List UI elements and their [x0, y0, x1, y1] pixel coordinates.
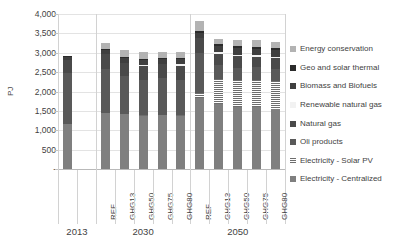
legend-swatch-icon — [290, 83, 296, 89]
legend-swatch-icon — [290, 176, 296, 182]
legend-label: Energy conservation — [300, 45, 373, 53]
bar-segment — [63, 124, 72, 169]
legend-item[interactable]: Oli products — [290, 133, 410, 152]
bar-segment — [63, 60, 72, 73]
category-tick — [266, 170, 267, 224]
bar-segment — [271, 81, 280, 108]
legend-item[interactable]: Geo and solar thermal — [290, 59, 410, 78]
gridline — [58, 53, 285, 54]
bar-segment — [101, 113, 110, 169]
bar-segment — [252, 49, 261, 56]
legend-swatch-icon — [290, 158, 296, 164]
bar-segment — [271, 58, 280, 69]
legend-swatch-icon — [290, 139, 296, 145]
y-axis-tick-label: 2,000 — [35, 87, 56, 97]
bar-segment — [271, 69, 280, 81]
bar-segment — [158, 115, 167, 169]
bar-segment — [233, 107, 242, 169]
bar-segment — [101, 54, 110, 70]
bar-stack[interactable] — [63, 56, 72, 169]
bar-segment — [271, 50, 280, 57]
bar-segment — [139, 80, 148, 115]
bar-segment — [271, 109, 280, 169]
legend-label: Natural gas — [300, 120, 341, 128]
bar-segment — [120, 63, 129, 76]
bar-segment — [176, 66, 185, 80]
bar-segment — [158, 78, 167, 115]
bar-segment — [233, 80, 242, 106]
bar-stack[interactable] — [158, 52, 167, 169]
gridline — [58, 92, 285, 93]
legend-item[interactable]: Biomass and Biofuels — [290, 77, 410, 96]
category-tick — [209, 170, 210, 224]
bar-segment — [195, 38, 204, 53]
bar-segment — [101, 69, 110, 113]
bar-stack[interactable] — [233, 40, 242, 169]
bar-stack[interactable] — [195, 21, 204, 169]
bar-stack[interactable] — [139, 52, 148, 169]
bar-segment — [233, 48, 242, 55]
legend-item[interactable]: Natural gas — [290, 114, 410, 133]
bar-segment — [252, 107, 261, 169]
bar-segment — [195, 98, 204, 169]
axis-boundary — [58, 14, 59, 224]
stacked-bar-chart: PJ -5001,0001,5002,0002,5003,0003,5004,0… — [0, 0, 413, 240]
bar-stack[interactable] — [252, 40, 261, 169]
legend-item[interactable]: Electricity - Centralized — [290, 170, 410, 189]
category-tick — [77, 170, 78, 224]
category-tick — [228, 170, 229, 224]
gridline — [58, 14, 285, 15]
gridline — [58, 72, 285, 73]
y-axis-tick-label: 1,000 — [35, 125, 56, 135]
gridline — [58, 111, 285, 112]
y-axis-tick-label: 3,500 — [35, 28, 56, 38]
bar-stack[interactable] — [214, 39, 223, 169]
category-tick — [134, 170, 135, 224]
legend-item[interactable]: Energy conservation — [290, 40, 410, 59]
bar-segment — [139, 66, 148, 79]
legend-label: Electricity - Solar PV — [300, 157, 373, 165]
legend-item[interactable]: Electricity - Solar PV — [290, 152, 410, 171]
y-axis-tick-label: 3,000 — [35, 48, 56, 58]
bar-segment — [195, 21, 204, 31]
y-axis-tick-labels: -5001,0001,5002,0002,5003,0003,5004,000 — [18, 14, 56, 170]
bar-stack[interactable] — [120, 50, 129, 169]
bar-stack[interactable] — [271, 42, 280, 169]
y-axis-tick-label: 1,500 — [35, 106, 56, 116]
y-axis-tick-label: 2,500 — [35, 67, 56, 77]
category-tick — [153, 170, 154, 224]
bar-segment — [139, 116, 148, 169]
y-axis-tick-label: 4,000 — [35, 9, 56, 19]
bar-stack[interactable] — [101, 43, 110, 169]
bar-segment — [271, 42, 280, 49]
bar-segment — [63, 73, 72, 125]
bar-segment — [214, 79, 223, 104]
gridline — [58, 33, 285, 34]
bar-segment — [158, 52, 167, 59]
bar-segment — [252, 57, 261, 68]
legend-swatch-icon — [290, 65, 296, 71]
bar-segment — [120, 114, 129, 169]
legend-swatch-icon — [290, 46, 296, 52]
x-axis-series-label: GHG80 — [185, 193, 194, 220]
category-tick — [172, 170, 173, 224]
bar-segment — [120, 76, 129, 114]
legend-label: Biomass and Biofuels — [300, 82, 377, 90]
bar-segment — [252, 67, 261, 79]
chart-legend: Energy conservationGeo and solar thermal… — [290, 40, 410, 189]
legend-swatch-icon — [290, 102, 296, 108]
legend-label: Renewable natural gas — [300, 101, 382, 109]
legend-label: Electricity - Centralized — [300, 175, 382, 183]
bar-segment — [233, 56, 242, 67]
bar-segment — [195, 53, 204, 93]
category-tick — [115, 170, 116, 224]
bar-stack[interactable] — [176, 52, 185, 169]
gridline — [58, 130, 285, 131]
bar-segment — [214, 104, 223, 169]
legend-item[interactable]: Renewable natural gas — [290, 96, 410, 115]
plot-area: REFGHG13GHG50GHG75GHG80REFGHG13GHG50GHG7… — [58, 14, 285, 170]
bar-segment — [233, 68, 242, 81]
legend-label: Oli products — [300, 138, 343, 146]
bar-segment — [252, 80, 261, 107]
bar-segment — [214, 65, 223, 79]
